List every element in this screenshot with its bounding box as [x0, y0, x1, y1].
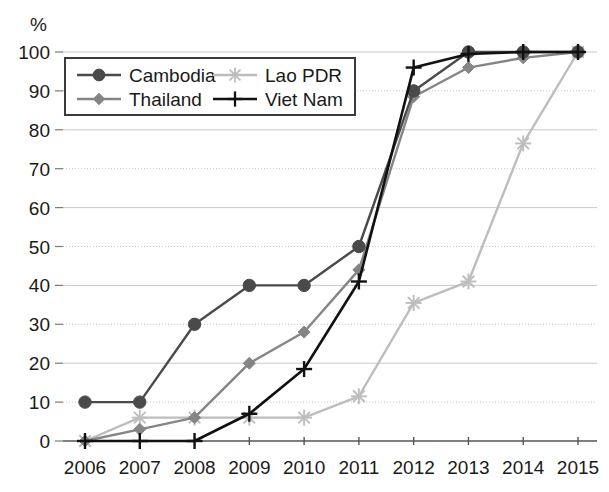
- x-tick-label: 2008: [173, 457, 215, 478]
- marker-plus: [406, 60, 422, 76]
- legend: CambodiaLao PDRThailandViet Nam: [65, 58, 355, 115]
- marker-circle: [243, 279, 255, 291]
- y-tick-label: 20: [29, 353, 50, 374]
- chart-container: 0102030405060708090100200620072008200920…: [0, 0, 609, 492]
- marker-star: [227, 67, 242, 82]
- y-tick-label: 60: [29, 198, 50, 219]
- marker-diamond: [462, 62, 474, 74]
- x-axis-labels: 2006200720082009201020112012201320142015: [64, 457, 599, 478]
- marker-star: [351, 388, 367, 404]
- legend-label: Viet Nam: [265, 89, 343, 110]
- y-tick-marks: [55, 52, 63, 441]
- x-tick-label: 2014: [502, 457, 545, 478]
- y-tick-label: 90: [29, 81, 50, 102]
- x-tick-label: 2009: [228, 457, 270, 478]
- marker-plus: [187, 433, 203, 449]
- y-tick-label: 40: [29, 275, 50, 296]
- y-tick-label: 50: [29, 237, 50, 258]
- marker-star: [406, 295, 422, 311]
- marker-star: [296, 410, 312, 426]
- y-tick-label: 30: [29, 314, 50, 335]
- y-tick-label: 100: [18, 42, 50, 63]
- marker-circle: [79, 396, 91, 408]
- marker-circle: [353, 240, 365, 252]
- legend-label: Lao PDR: [265, 65, 342, 86]
- marker-circle: [93, 69, 105, 81]
- x-tick-label: 2011: [338, 457, 379, 478]
- x-tick-label: 2012: [393, 457, 435, 478]
- marker-plus: [132, 433, 148, 449]
- y-tick-label: 0: [39, 431, 50, 452]
- marker-star: [460, 274, 476, 290]
- y-tick-label: 10: [29, 392, 50, 413]
- marker-circle: [134, 396, 146, 408]
- x-tick-label: 2013: [447, 457, 489, 478]
- marker-star: [515, 135, 531, 151]
- x-tick-label: 2015: [557, 457, 599, 478]
- marker-circle: [298, 279, 310, 291]
- legend-label: Thailand: [129, 89, 202, 110]
- line-chart: 0102030405060708090100200620072008200920…: [0, 0, 609, 492]
- marker-circle: [188, 318, 200, 330]
- y-axis-labels: 0102030405060708090100: [18, 42, 50, 452]
- y-axis-unit-label: %: [30, 14, 47, 35]
- y-tick-label: 70: [29, 159, 50, 180]
- x-tick-label: 2006: [64, 457, 106, 478]
- x-tick-label: 2007: [119, 457, 161, 478]
- legend-label: Cambodia: [129, 65, 216, 86]
- y-tick-label: 80: [29, 120, 50, 141]
- x-tick-label: 2010: [283, 457, 325, 478]
